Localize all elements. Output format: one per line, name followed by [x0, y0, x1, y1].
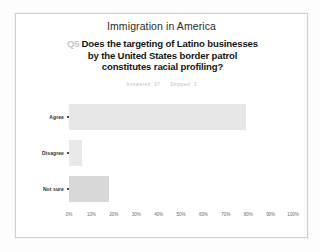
category-label-disagree: Disagree	[16, 150, 64, 156]
skipped-count: Skipped: 3	[170, 82, 197, 87]
question-number: Q5	[67, 38, 80, 49]
response-meta: Answered: 97 Skipped: 3	[16, 82, 307, 87]
survey-result-card: Immigration in America Q5Does the target…	[15, 13, 308, 238]
x-axis-tick-label: 70%	[221, 212, 230, 217]
question-text-line-1: Does the targeting of Latino businesses	[82, 38, 258, 49]
x-axis-tick-label: 90%	[266, 212, 275, 217]
x-axis-tick-label: 0%	[66, 212, 72, 217]
category-label-not-sure: Not sure	[16, 186, 64, 192]
x-axis-tick-label: 40%	[154, 212, 163, 217]
x-axis-tick-label: 20%	[109, 212, 118, 217]
question-heading: Q5Does the targeting of Latino businesse…	[30, 38, 295, 73]
x-axis-tick-label: 50%	[177, 212, 186, 217]
page-title: Immigration in America	[16, 20, 307, 32]
chart-row-disagree: Disagree	[16, 138, 309, 168]
bar-not-sure	[69, 176, 109, 202]
screenshot-page: Immigration in America Q5Does the target…	[0, 0, 320, 252]
x-axis-tick-label: 10%	[87, 212, 96, 217]
bar-disagree	[69, 140, 82, 166]
bar-agree	[69, 104, 246, 130]
question-text-line-2: by the United States border patrol	[30, 50, 295, 62]
chart-row-agree: Agree	[16, 102, 309, 132]
question-text-line-3: constitutes racial profiling?	[30, 61, 295, 73]
bar-chart-plot-area: Agree Disagree Not sure 0%10%20%30%40%50…	[16, 96, 309, 238]
x-axis-tick-label: 80%	[244, 212, 253, 217]
answered-count: Answered: 97	[126, 82, 160, 87]
x-axis: 0%10%20%30%40%50%60%70%80%90%100%	[69, 212, 293, 224]
chart-row-not-sure: Not sure	[16, 174, 309, 204]
question-line-1: Q5Does the targeting of Latino businesse…	[30, 38, 295, 50]
x-axis-tick-label: 60%	[199, 212, 208, 217]
x-axis-tick-label: 30%	[132, 212, 141, 217]
x-axis-tick-label: 100%	[287, 212, 298, 217]
category-label-agree: Agree	[16, 114, 64, 120]
